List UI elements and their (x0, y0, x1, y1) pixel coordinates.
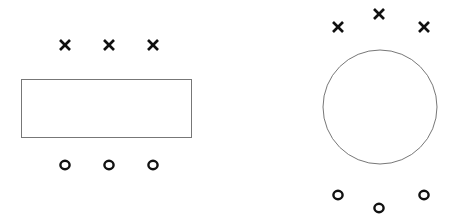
x-mark-icon (60, 40, 70, 50)
x-mark-icon (374, 9, 384, 19)
left-figure (22, 40, 192, 169)
o-mark-icon (333, 191, 342, 199)
o-mark-icon (419, 191, 428, 199)
x-mark-icon (148, 40, 158, 50)
left-top-x-marks (60, 40, 158, 50)
left-bottom-o-marks (60, 161, 157, 169)
o-mark-icon (148, 161, 157, 169)
rectangle-shape (22, 80, 192, 138)
circle-shape (323, 50, 437, 164)
diagram-canvas (0, 0, 451, 223)
x-mark-icon (333, 22, 343, 32)
right-bottom-o-marks (333, 191, 428, 212)
right-top-x-marks (333, 9, 429, 32)
x-mark-icon (104, 40, 114, 50)
o-mark-icon (60, 161, 69, 169)
o-mark-icon (104, 161, 113, 169)
right-figure (323, 9, 437, 212)
o-mark-icon (374, 204, 383, 212)
x-mark-icon (419, 22, 429, 32)
